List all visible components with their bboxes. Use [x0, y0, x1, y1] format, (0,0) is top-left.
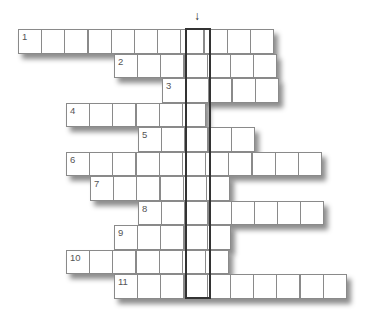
crossword-cell[interactable] — [208, 201, 232, 226]
crossword-cell[interactable] — [206, 176, 230, 201]
crossword-cell[interactable] — [159, 250, 183, 275]
clue-number: 7 — [94, 179, 99, 189]
crossword-grid: ↓ 1234567891011 — [0, 0, 365, 314]
crossword-cell[interactable] — [276, 274, 300, 299]
crossword-cell[interactable]: 10 — [66, 250, 90, 275]
crossword-cell[interactable] — [277, 201, 301, 226]
crossword-cell[interactable] — [300, 274, 324, 299]
crossword-cell[interactable] — [204, 29, 228, 54]
crossword-row-3: 3 — [162, 78, 279, 103]
crossword-cell[interactable] — [184, 225, 208, 250]
crossword-cell[interactable] — [157, 29, 181, 54]
crossword-cell[interactable] — [227, 29, 251, 54]
crossword-cell[interactable] — [41, 29, 65, 54]
crossword-cell[interactable] — [183, 176, 207, 201]
crossword-cell[interactable] — [255, 78, 279, 103]
clue-number: 11 — [118, 277, 128, 287]
crossword-cell[interactable] — [231, 201, 255, 226]
crossword-cell[interactable] — [159, 152, 183, 177]
crossword-cell[interactable] — [89, 250, 113, 275]
crossword-row-9: 9 — [114, 225, 231, 250]
crossword-cell[interactable] — [113, 176, 137, 201]
crossword-cell[interactable] — [160, 274, 184, 299]
crossword-cell[interactable] — [182, 152, 206, 177]
crossword-cell[interactable] — [253, 54, 277, 79]
crossword-cell[interactable] — [184, 274, 208, 299]
crossword-cell[interactable] — [184, 201, 208, 226]
crossword-cell[interactable] — [228, 152, 252, 177]
crossword-cell[interactable]: 9 — [114, 225, 138, 250]
clue-number: 1 — [22, 32, 27, 42]
crossword-row-1: 1 — [18, 29, 274, 54]
crossword-cell[interactable]: 6 — [66, 152, 90, 177]
crossword-cell[interactable] — [230, 54, 254, 79]
crossword-cell[interactable] — [160, 176, 184, 201]
crossword-cell[interactable] — [161, 201, 185, 226]
crossword-cell[interactable] — [89, 103, 113, 128]
crossword-cell[interactable]: 11 — [114, 274, 138, 299]
crossword-cell[interactable] — [88, 29, 112, 54]
crossword-row-4: 4 — [66, 103, 206, 128]
clue-number: 8 — [142, 204, 147, 214]
crossword-cell[interactable] — [182, 250, 206, 275]
crossword-cell[interactable] — [159, 103, 183, 128]
crossword-cell[interactable] — [208, 127, 232, 152]
crossword-cell[interactable] — [112, 152, 136, 177]
crossword-cell[interactable] — [182, 103, 206, 128]
crossword-cell[interactable] — [254, 201, 278, 226]
crossword-row-2: 2 — [114, 54, 277, 79]
crossword-cell[interactable] — [112, 250, 136, 275]
crossword-cell[interactable] — [230, 274, 254, 299]
crossword-cell[interactable] — [185, 78, 209, 103]
crossword-cell[interactable] — [112, 103, 136, 128]
crossword-cell[interactable]: 1 — [18, 29, 42, 54]
crossword-cell[interactable] — [134, 29, 158, 54]
crossword-cell[interactable] — [207, 225, 231, 250]
crossword-cell[interactable] — [161, 127, 185, 152]
crossword-row-8: 8 — [138, 201, 324, 226]
crossword-cell[interactable] — [137, 54, 161, 79]
crossword-cell[interactable]: 7 — [90, 176, 114, 201]
clue-number: 6 — [70, 155, 75, 165]
crossword-cell[interactable] — [89, 152, 113, 177]
crossword-cell[interactable] — [205, 152, 229, 177]
crossword-cell[interactable] — [136, 152, 160, 177]
crossword-cell[interactable]: 2 — [114, 54, 138, 79]
crossword-cell[interactable] — [205, 250, 229, 275]
crossword-cell[interactable] — [232, 78, 256, 103]
crossword-cell[interactable] — [64, 29, 88, 54]
crossword-cell[interactable] — [207, 274, 231, 299]
crossword-cell[interactable] — [231, 127, 255, 152]
crossword-row-11: 11 — [114, 274, 347, 299]
crossword-cell[interactable] — [160, 54, 184, 79]
clue-number: 3 — [166, 81, 171, 91]
crossword-cell[interactable]: 8 — [138, 201, 162, 226]
crossword-cell[interactable] — [207, 54, 231, 79]
crossword-cell[interactable] — [184, 54, 208, 79]
crossword-cell[interactable] — [137, 225, 161, 250]
crossword-cell[interactable] — [252, 152, 276, 177]
crossword-cell[interactable] — [250, 29, 274, 54]
crossword-cell[interactable]: 5 — [138, 127, 162, 152]
crossword-cell[interactable] — [184, 127, 208, 152]
crossword-cell[interactable] — [323, 274, 347, 299]
crossword-row-6: 6 — [66, 152, 322, 177]
crossword-cell[interactable]: 3 — [162, 78, 186, 103]
clue-number: 2 — [118, 57, 123, 67]
crossword-cell[interactable] — [136, 250, 160, 275]
crossword-cell[interactable] — [208, 78, 232, 103]
crossword-row-5: 5 — [138, 127, 255, 152]
crossword-cell[interactable] — [137, 274, 161, 299]
crossword-cell[interactable] — [111, 29, 135, 54]
crossword-cell[interactable] — [136, 103, 160, 128]
crossword-cell[interactable] — [180, 29, 204, 54]
crossword-cell[interactable] — [275, 152, 299, 177]
crossword-cell[interactable] — [253, 274, 277, 299]
crossword-cell[interactable] — [160, 225, 184, 250]
crossword-cell[interactable]: 4 — [66, 103, 90, 128]
crossword-row-10: 10 — [66, 250, 229, 275]
crossword-cell[interactable] — [300, 201, 324, 226]
crossword-cell[interactable] — [298, 152, 322, 177]
crossword-row-7: 7 — [90, 176, 230, 201]
crossword-cell[interactable] — [136, 176, 160, 201]
